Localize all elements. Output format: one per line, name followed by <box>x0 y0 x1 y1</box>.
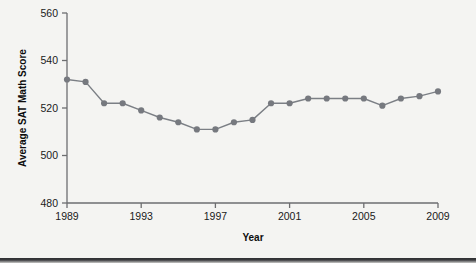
x-tick-label: 2001 <box>278 210 302 222</box>
data-point <box>101 100 107 106</box>
page-bottom-rule <box>0 258 476 263</box>
data-point <box>342 95 348 101</box>
x-tick-label: 2005 <box>352 210 376 222</box>
data-point <box>324 95 330 101</box>
y-tick-label: 520 <box>40 102 58 114</box>
data-point <box>249 117 255 123</box>
data-point <box>398 95 404 101</box>
y-axis-title: Average SAT Math Score <box>17 49 28 167</box>
data-point <box>268 100 274 106</box>
data-point <box>194 126 200 132</box>
data-point <box>157 114 163 120</box>
x-tick-label: 1989 <box>55 210 79 222</box>
data-point <box>287 100 293 106</box>
y-tick-label: 560 <box>40 7 58 19</box>
data-point <box>379 103 385 109</box>
x-tick-label: 1993 <box>130 210 154 222</box>
y-tick-label: 540 <box>40 54 58 66</box>
y-tick-label: 480 <box>40 197 58 209</box>
data-point <box>435 88 441 94</box>
y-tick-label: 500 <box>40 149 58 161</box>
data-point <box>120 100 126 106</box>
data-point <box>64 76 70 82</box>
data-point <box>416 93 422 99</box>
data-point <box>361 95 367 101</box>
data-point <box>138 107 144 113</box>
sat-math-score-line-chart: 480500520540560 198919931997200120052009… <box>0 0 476 258</box>
x-tick-label: 2009 <box>426 210 450 222</box>
data-point <box>175 119 181 125</box>
data-point <box>82 79 88 85</box>
x-tick-label: 1997 <box>204 210 228 222</box>
chart-figure: 480500520540560 198919931997200120052009… <box>0 0 476 258</box>
data-point <box>231 119 237 125</box>
data-point <box>212 126 218 132</box>
data-point <box>305 95 311 101</box>
x-axis-title: Year <box>242 232 263 243</box>
